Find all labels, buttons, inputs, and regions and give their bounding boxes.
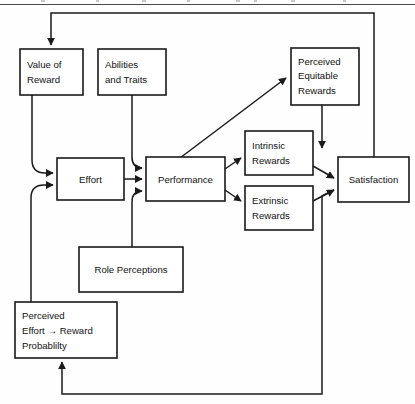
- node-label-perceived-equitable-rewards-line-1: Perceived: [298, 56, 341, 67]
- node-perceived-effort-reward-probability[interactable]: Perceived Effort → Reward Probablilty: [15, 302, 117, 358]
- node-performance[interactable]: Performance: [146, 157, 225, 201]
- node-perceived-equitable-rewards[interactable]: Perceived Equitable Rewards: [291, 48, 359, 105]
- edge-role-perceptions-to-performance: [132, 191, 142, 247]
- node-extrinsic-rewards[interactable]: Extrinsic Rewards: [245, 186, 313, 230]
- node-abilities-and-traits[interactable]: Abilities and Traits: [98, 49, 166, 95]
- edge-performance-to-extrinsic-rewards: [225, 190, 241, 201]
- edge-value-of-reward-to-effort: [32, 95, 53, 173]
- node-label-perceived-equitable-rewards-line-3: Rewards: [298, 85, 336, 96]
- node-label-effort: Effort: [79, 174, 102, 185]
- edge-intrinsic-rewards-to-satisfaction: [313, 166, 334, 178]
- node-label-role-perceptions: Role Perceptions: [94, 264, 167, 275]
- node-effort[interactable]: Effort: [57, 158, 124, 200]
- node-label-extrinsic-rewards-line-1: Extrinsic: [252, 195, 288, 206]
- node-value-of-reward[interactable]: Value of Reward: [20, 49, 83, 95]
- edge-abilities-to-performance: [132, 95, 142, 168]
- node-label-extrinsic-rewards-line-2: Rewards: [252, 210, 290, 221]
- node-label-probability-line-3: Probablilty: [22, 340, 67, 351]
- node-label-probability-line-1: Perceived: [22, 310, 65, 321]
- node-intrinsic-rewards[interactable]: Intrinsic Rewards: [245, 131, 313, 175]
- node-label-satisfaction: Satisfaction: [349, 174, 399, 185]
- node-label-abilities-and-traits-line-2: and Traits: [105, 74, 147, 85]
- node-label-performance: Performance: [158, 174, 213, 185]
- node-label-intrinsic-rewards-line-2: Rewards: [252, 155, 290, 166]
- node-label-abilities-and-traits-line-1: Abilities: [105, 59, 138, 70]
- node-label-probability-line-2: Effort → Reward: [22, 325, 93, 336]
- node-role-perceptions[interactable]: Role Perceptions: [79, 247, 183, 292]
- edge-probability-to-effort: [31, 185, 53, 302]
- diagram-canvas: Value of Reward Abilities and Traits Per…: [0, 0, 415, 404]
- edge-performance-to-intrinsic-rewards: [225, 158, 241, 169]
- page-top-rule: [0, 0, 415, 5]
- node-label-intrinsic-rewards-line-1: Intrinsic: [252, 140, 285, 151]
- node-label-value-of-reward-line-1: Value of: [27, 59, 62, 70]
- node-label-value-of-reward-line-2: Reward: [27, 74, 60, 85]
- node-label-perceived-equitable-rewards-line-2: Equitable: [298, 70, 338, 81]
- node-satisfaction[interactable]: Satisfaction: [338, 157, 409, 202]
